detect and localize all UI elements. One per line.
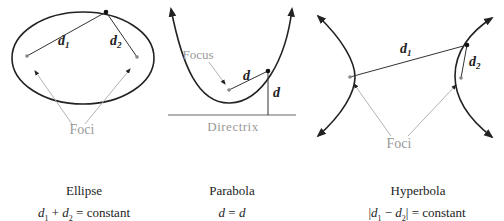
parabola-title: Parabola <box>192 183 272 199</box>
ellipse-title: Ellipse <box>44 183 124 199</box>
ellipse-curve <box>12 12 154 104</box>
parabola-diagram: Focus d d Directrix <box>168 9 296 134</box>
ellipse-focus-left-icon <box>25 54 29 58</box>
directrix-label: Directrix <box>207 119 258 134</box>
hyperbola-foci-label: Foci <box>387 136 412 151</box>
parabola-point-icon <box>266 69 271 74</box>
ellipse-foci-pointer-left <box>35 71 72 124</box>
hyperbola-foci-pointer-right <box>408 85 456 136</box>
ellipse-diagram: d1 d2 Foci <box>12 10 154 137</box>
parabola-d-focus-label: d <box>243 68 251 83</box>
ellipse-point-icon <box>104 10 109 15</box>
ellipse-d2-label: d2 <box>110 33 122 50</box>
ellipse-equation: d1 + d2 = constant <box>22 205 146 221</box>
ellipse-d1-label: d1 <box>58 33 70 50</box>
hyperbola-equation: |d1 − d2| = constant <box>352 205 482 221</box>
hyperbola-foci-pointer-left <box>354 84 391 136</box>
parabola-d-directrix-label: d <box>273 85 281 100</box>
ellipse-foci-label: Foci <box>70 122 95 137</box>
hyperbola-title: Hyperbola <box>378 183 458 199</box>
focus-pointer <box>209 62 225 84</box>
focus-label: Focus <box>182 47 213 62</box>
parabola-focus-icon <box>227 88 231 92</box>
hyperbola-diagram: d1 d2 Foci <box>318 16 492 151</box>
hyperbola-d2-label: d2 <box>469 54 481 71</box>
ellipse-focus-right-icon <box>135 55 139 59</box>
hyperbola-point-icon <box>465 43 470 48</box>
hyperbola-focus-right-icon <box>459 76 463 80</box>
parabola-equation: d = d <box>202 205 262 221</box>
hyperbola-focus-left-icon <box>348 75 352 79</box>
hyperbola-d1-label: d1 <box>400 41 412 58</box>
